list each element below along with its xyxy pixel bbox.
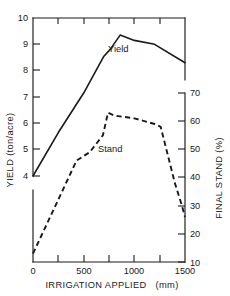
y-left-label-7: 7 [23, 92, 28, 102]
yield-series-label: Yield [108, 43, 129, 54]
y-axis-left-title: YIELD (ton/acre) [5, 113, 15, 188]
y-left-label-4: 4 [23, 171, 28, 181]
y-left-label-5: 5 [23, 144, 28, 154]
y-right-label-60: 60 [190, 116, 200, 126]
y-right-label-20: 20 [190, 229, 200, 239]
left-axis-ticks [33, 44, 40, 176]
left-tick-labels: 10 9 8 7 6 5 4 [18, 13, 28, 181]
x-label-0: 0 [30, 266, 35, 276]
y-left-label-10: 10 [18, 13, 28, 23]
x-axis-title: IRRIGATION APPLIED (mm) [45, 280, 178, 290]
x-label-1500: 1500 [175, 266, 195, 276]
y-right-label-40: 40 [190, 172, 200, 182]
axis-frame [33, 18, 185, 262]
y-left-label-8: 8 [23, 65, 28, 75]
chart-plot-area: 10 9 8 7 6 5 4 70 60 50 40 30 20 10 0 50… [0, 0, 230, 296]
x-label-1000: 1000 [124, 266, 144, 276]
right-axis-ticks [178, 93, 185, 262]
y-right-label-70: 70 [190, 88, 200, 98]
y-right-label-30: 30 [190, 201, 200, 211]
bottom-tick-labels: 0 500 1000 1500 [30, 266, 195, 276]
right-tick-labels: 70 60 50 40 30 20 10 [190, 88, 200, 268]
chart-figure: 10 9 8 7 6 5 4 70 60 50 40 30 20 10 0 50… [0, 0, 230, 296]
x-axis-title-unit: (mm) [156, 280, 179, 290]
series-line-stand [33, 113, 185, 254]
x-axis-title-main: IRRIGATION APPLIED [45, 280, 146, 290]
stand-series-label: Stand [98, 143, 123, 154]
series-line-yield [33, 35, 185, 176]
x-label-500: 500 [76, 266, 91, 276]
top-axis-ticks [58, 18, 160, 24]
y-left-label-9: 9 [23, 39, 28, 49]
y-left-label-6: 6 [23, 118, 28, 128]
bottom-axis-ticks [58, 255, 160, 262]
y-right-label-50: 50 [190, 144, 200, 154]
y-axis-right-title: FINAL STAND (%) [214, 137, 224, 219]
